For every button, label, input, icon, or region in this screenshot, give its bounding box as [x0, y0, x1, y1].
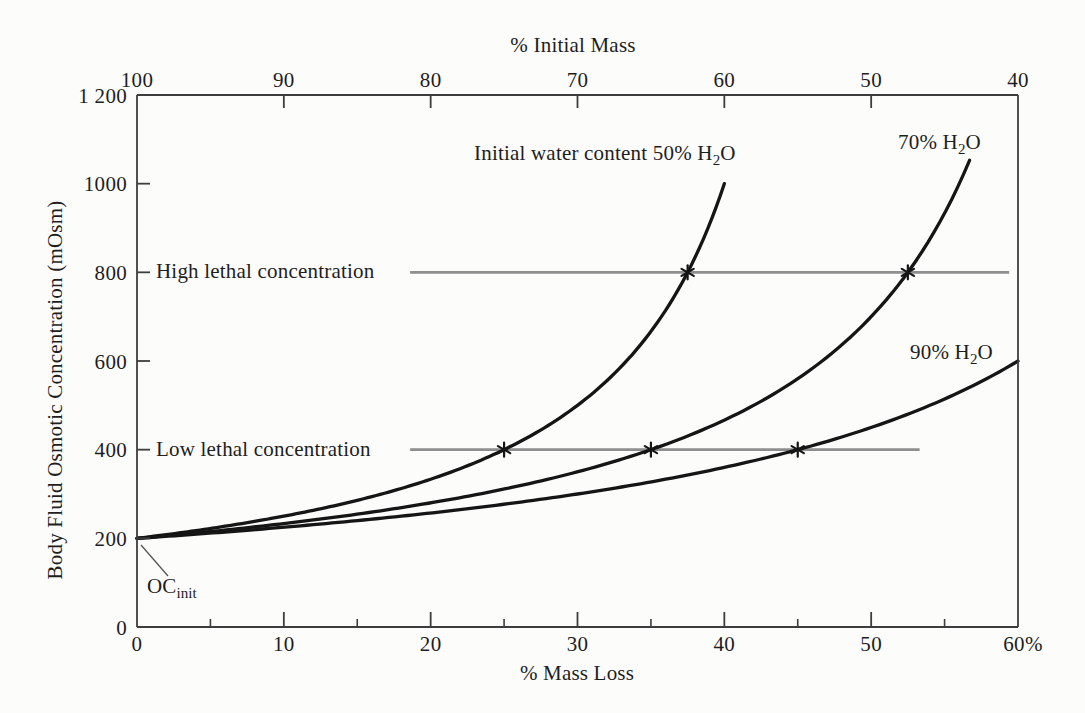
curve-label-50pct: Initial water content 50% H2O — [474, 141, 736, 167]
top-tick-label-50: 50 — [860, 68, 882, 92]
curve-label-90pct-text: 90% H — [910, 340, 970, 364]
oc-init-pointer — [141, 545, 168, 576]
bottom-tick-label-40: 40 — [714, 632, 736, 656]
left-tick-label-0: 0 — [116, 616, 127, 640]
left-tick-label-1200: 1 200 — [78, 84, 127, 108]
curve-label-50pct-suffix: O — [720, 141, 735, 165]
high-lethal-label: High lethal concentration — [156, 259, 374, 283]
curve-label-90pct-suffix: O — [977, 340, 992, 364]
oc-init-label: OCinit — [147, 574, 197, 600]
chart-figure: 020040060080010001 200100908070605040010… — [0, 0, 1085, 713]
subscript-2-icon: 2 — [958, 141, 966, 157]
top-tick-label-90: 90 — [273, 68, 295, 92]
bottom-tick-label-10: 10 — [273, 632, 295, 656]
subscript-2-icon: 2 — [970, 351, 978, 367]
top-tick-label-60: 60 — [714, 68, 736, 92]
bottom-tick-label-0: 0 — [132, 632, 143, 656]
left-tick-label-800: 800 — [95, 261, 127, 285]
left-axis-title: Body Fluid Osmotic Concentration (mOsm) — [43, 201, 68, 580]
curve-label-70pct-suffix: O — [965, 130, 980, 154]
curve-70pct — [137, 160, 970, 538]
low-lethal-label: Low lethal concentration — [156, 437, 371, 461]
subscript-2-icon: 2 — [713, 152, 721, 168]
bottom-tick-label-50: 50 — [860, 632, 882, 656]
bottom-tick-label-60: 60% — [1003, 632, 1042, 656]
bottom-axis-title: % Mass Loss — [520, 661, 634, 686]
top-axis-title: % Initial Mass — [510, 33, 635, 58]
oc-init-subscript: init — [177, 585, 197, 601]
top-tick-label-100: 100 — [121, 68, 153, 92]
left-tick-label-1000: 1000 — [84, 172, 127, 196]
bottom-tick-label-20: 20 — [420, 632, 442, 656]
curve-label-70pct-text: 70% H — [898, 130, 958, 154]
left-tick-label-200: 200 — [95, 527, 127, 551]
top-tick-label-80: 80 — [420, 68, 442, 92]
curve-label-50pct-text: Initial water content 50% H — [474, 141, 713, 165]
top-tick-label-70: 70 — [567, 68, 589, 92]
bottom-tick-label-30: 30 — [567, 632, 589, 656]
curve-label-90pct: 90% H2O — [910, 340, 993, 366]
oc-init-main: OC — [147, 574, 177, 598]
left-tick-label-600: 600 — [95, 350, 127, 374]
curve-label-70pct: 70% H2O — [898, 130, 981, 156]
top-tick-label-40: 40 — [1007, 68, 1029, 92]
left-tick-label-400: 400 — [95, 438, 127, 462]
